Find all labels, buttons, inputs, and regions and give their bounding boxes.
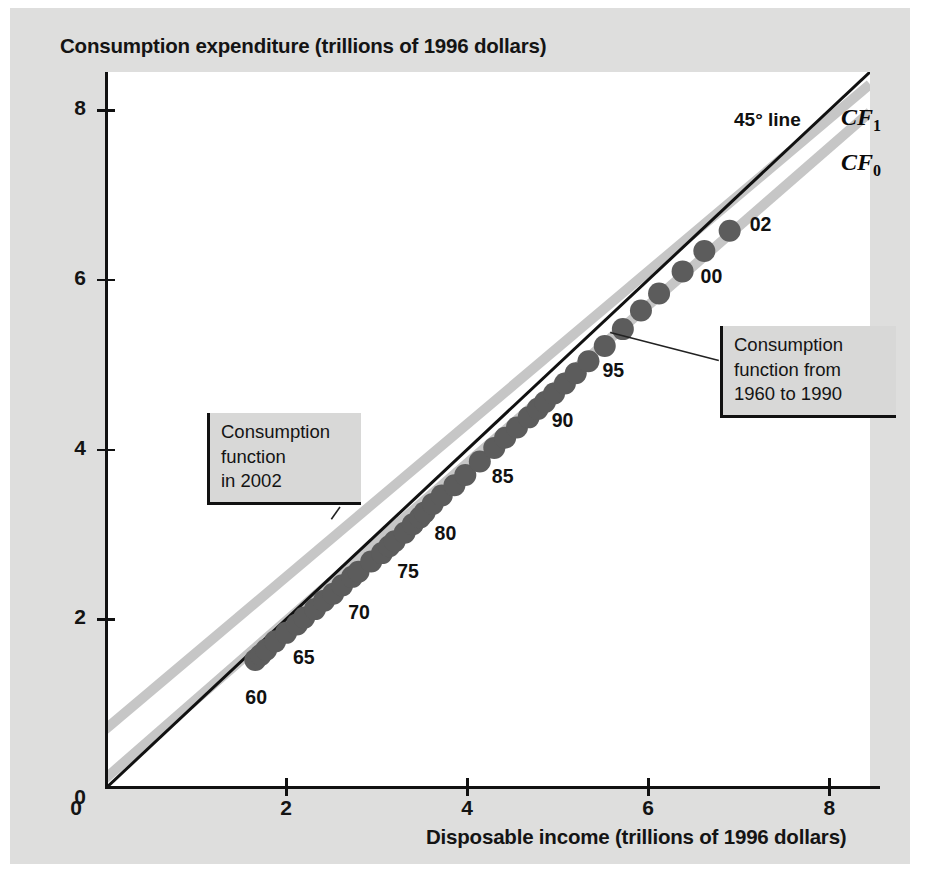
data-point [693,240,715,262]
y-tick-label-6: 6 [56,266,86,290]
y-tick-mark-8 [97,109,115,112]
y-tick-mark-2 [97,618,115,621]
year-label-90: 90 [552,409,574,432]
year-label-85: 85 [492,465,514,488]
x-tick-mark-6 [647,778,650,796]
annotation-leader-2002 [331,507,340,519]
year-label-75: 75 [397,560,419,583]
cf1-label-base: CF [841,104,873,130]
data-point [630,299,652,321]
annotation-leader-1960-1990 [610,332,719,360]
data-point [594,335,616,357]
x-tick-label-4: 4 [447,796,487,820]
year-label-80: 80 [435,522,457,545]
data-point [719,220,741,242]
x-axis-line [105,786,880,789]
data-point [672,260,694,282]
x-tick-label-6: 6 [628,796,668,820]
cf1-line-label: CF1 [841,104,881,135]
cf0-label-subscript: 0 [873,162,881,179]
y-tick-label-2: 2 [56,605,86,629]
year-label-60: 60 [245,686,267,709]
year-label-00: 00 [701,265,723,288]
chart-title: Consumption expenditure (trillions of 19… [60,34,546,58]
year-label-95: 95 [602,359,624,382]
forty-five-degree-line-label: 45° line [734,109,801,131]
data-point [577,350,599,372]
x-tick-mark-2 [285,778,288,796]
year-label-02: 02 [750,213,772,236]
annotation-consumption-function-2002: Consumption function in 2002 [207,413,361,505]
data-point [648,282,670,304]
x-tick-label-2: 2 [266,796,306,820]
cf0-line-label: CF0 [841,149,881,180]
x-axis-title: Disposable income (trillions of 1996 dol… [426,825,846,849]
chart-figure: Consumption expenditure (trillions of 19… [10,8,910,864]
year-label-65: 65 [293,646,315,669]
x-tick-mark-8 [828,778,831,796]
x-tick-label-8: 8 [809,796,849,820]
y-tick-label-8: 8 [56,96,86,120]
y-tick-mark-6 [97,279,115,282]
cf1-label-subscript: 1 [873,117,881,134]
cf0-label-base: CF [841,149,873,175]
x-tick-mark-4 [466,778,469,796]
data-point [612,318,634,340]
y-axis-line [105,72,108,789]
y-tick-label-4: 4 [56,436,86,460]
year-label-70: 70 [348,601,370,624]
x-tick-label-0: 0 [56,796,96,820]
annotation-consumption-function-1960-1990: Consumption function from 1960 to 1990 [720,326,896,418]
y-tick-mark-4 [97,449,115,452]
